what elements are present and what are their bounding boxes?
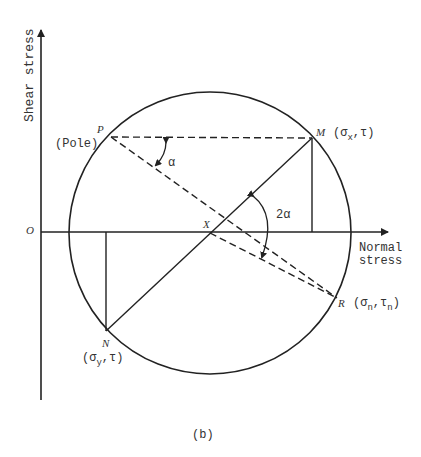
two-alpha-label: 2α: [276, 208, 290, 222]
dashed-line-PM: [111, 137, 312, 138]
center-X-label: X: [202, 218, 211, 230]
point-N-coord: (σy,τ): [82, 351, 123, 368]
point-N-letter: N: [101, 337, 110, 349]
pole-note: (Pole): [55, 137, 98, 151]
point-R-letter: R: [337, 297, 345, 309]
diameter-MN: [106, 138, 312, 331]
alpha-label: α: [168, 156, 175, 170]
origin-label: O: [26, 224, 34, 236]
point-M-letter: M: [315, 126, 326, 138]
pole-letter: P: [96, 123, 104, 135]
point-M-coord: (σx,τ): [333, 126, 374, 143]
figure-caption: (b): [192, 428, 214, 442]
dashed-line-XR: [210, 233, 337, 298]
mohr-circle-diagram: Shear stress Normal stress O P (Pole) M …: [0, 0, 421, 457]
point-R-coord: (σn,τn): [353, 296, 400, 313]
dashed-line-PR: [111, 137, 337, 298]
x-axis-label-line1: Normal: [359, 241, 402, 255]
y-axis-label: Shear stress: [22, 28, 37, 122]
alpha-angle-arc: [156, 142, 166, 165]
x-axis-label-line2: stress: [359, 254, 402, 268]
